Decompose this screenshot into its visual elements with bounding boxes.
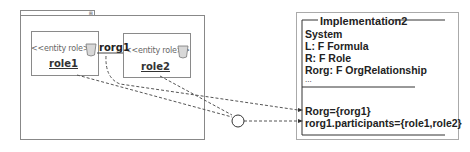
junction-circle xyxy=(232,115,244,127)
dashed-link-role2 xyxy=(160,76,232,115)
schema-bracket xyxy=(302,20,445,135)
dashed-link-rorg xyxy=(106,56,298,110)
dashed-link-role1 xyxy=(77,75,232,117)
diagram-connectors xyxy=(0,0,470,152)
